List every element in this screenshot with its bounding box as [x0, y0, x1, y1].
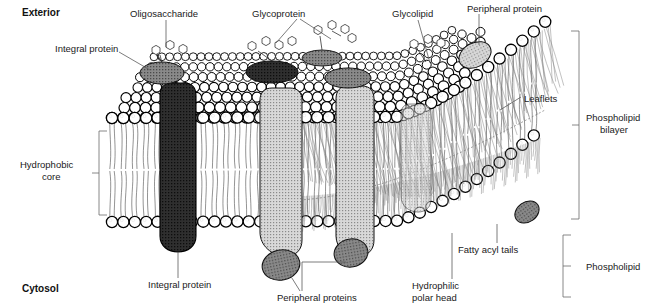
phospholipid-head [302, 92, 312, 102]
phospholipid-head [448, 188, 459, 199]
sugar-hexagon [166, 40, 174, 49]
receding-acyl-tail [536, 35, 548, 95]
phospholipid-head [448, 84, 459, 95]
phospholipid-head [197, 63, 205, 71]
label-exterior: Exterior [22, 7, 60, 18]
integral-protein-light-1 [260, 88, 302, 256]
phospholipid-head [121, 93, 131, 103]
acyl-tail [212, 171, 213, 217]
phospholipid-head [399, 60, 407, 68]
phospholipid-head [197, 53, 205, 61]
phospholipid-head [141, 93, 151, 103]
label-peripheral-proteins: Peripheral proteins [277, 292, 357, 303]
phospholipid-head [209, 216, 220, 227]
phospholipid-head [106, 216, 117, 227]
phospholipid-head [374, 101, 385, 112]
phospholipid-head [448, 26, 456, 34]
surface-protein-dome-1 [140, 62, 184, 84]
rear-acyl-tail [539, 138, 540, 172]
rear-acyl-tail [483, 158, 484, 193]
phospholipid-head [371, 82, 381, 92]
integral-protein-light-2 [336, 86, 374, 256]
label-hydrophilic-head-line2: polar head [412, 292, 457, 303]
phospholipid-head [283, 52, 291, 60]
phospholipid-head [220, 112, 231, 123]
phospholipid-head [141, 216, 152, 227]
rear-acyl-tail [306, 196, 307, 218]
phospholipid-head [141, 112, 152, 123]
phospholipid-head [118, 216, 129, 227]
phospholipid-head [228, 53, 236, 61]
phospholipid-head [213, 53, 221, 61]
phospholipid-head [207, 72, 216, 81]
label-oligosaccharide: Oligosaccharide [130, 8, 198, 19]
acyl-tail [246, 123, 247, 169]
acyl-tail [114, 123, 115, 169]
label-phospholipid: Phospholipid [586, 261, 640, 272]
acyl-tail [205, 171, 206, 217]
phospholipid-head [222, 92, 232, 102]
phospholipid-head [202, 92, 212, 102]
acyl-tail [223, 123, 224, 169]
phospholipid-head [494, 53, 505, 64]
sugar-link [332, 31, 341, 36]
rear-acyl-tail [538, 139, 539, 174]
phospholipid-head [130, 102, 141, 113]
phospholipid-head [200, 82, 210, 92]
phospholipid-head [206, 63, 214, 71]
acyl-tail [132, 171, 133, 217]
phospholipid-head [166, 53, 174, 61]
acyl-tail [257, 123, 258, 169]
phospholipid-head [181, 53, 189, 61]
phospholipid-head [517, 35, 528, 46]
sugar-link [320, 36, 322, 50]
rear-acyl-tail [375, 187, 376, 203]
label-hydrophilic-head-line1: Hydrophilic [412, 280, 459, 291]
oligosaccharide-chain [314, 20, 356, 50]
label-phospholipid-bilayer-line1: Phospholipid [586, 112, 640, 123]
receding-acyl-tail [476, 81, 482, 152]
phospholipid-head [276, 52, 284, 60]
phospholipid-head [225, 102, 236, 113]
phospholipid-head [362, 52, 370, 60]
integral-protein-light-3 [401, 104, 431, 212]
acyl-tail [154, 171, 155, 217]
rear-acyl-tail [528, 142, 529, 176]
phospholipid-head [131, 93, 141, 103]
receding-acyl-tail [314, 123, 319, 183]
receding-acyl-tail [465, 89, 479, 162]
rear-acyl-tail [517, 146, 518, 181]
phospholipid-head [460, 181, 471, 192]
phospholipid-head [381, 82, 391, 92]
phospholipid-head [377, 72, 386, 81]
rear-acyl-tail [504, 151, 505, 186]
sugar-hexagon [348, 33, 356, 42]
sugar-hexagon [437, 38, 445, 47]
phospholipid-head [312, 112, 323, 123]
phospholipid-head [228, 82, 238, 92]
phospholipid-head [140, 102, 151, 113]
phospholipid-head [315, 72, 324, 81]
acyl-tail [257, 170, 258, 216]
surface-protein-dome-4 [302, 50, 342, 66]
label-hydrophobic-core-line2: core [42, 171, 60, 182]
label-phospholipid-bilayer-line2: bilayer [600, 124, 628, 135]
rear-acyl-tail [390, 184, 391, 211]
label-fatty-acyl-tails: Fatty acyl tails [458, 244, 518, 255]
acyl-tail [519, 94, 520, 140]
phospholipid-head [205, 53, 213, 61]
membrane-figure: Exterior Cytosol Oligosaccharide Integra… [0, 0, 648, 306]
rear-acyl-tail [386, 185, 387, 201]
acyl-tail [114, 171, 115, 217]
rear-acyl-tail [333, 193, 334, 220]
phospholipid-head [212, 92, 222, 102]
phospholipid-head [306, 72, 315, 81]
acyl-tail [121, 171, 122, 217]
acyl-tail [147, 171, 148, 217]
phospholipid-head [346, 52, 354, 60]
integral-protein-dark [160, 83, 196, 252]
phospholipid-head [209, 82, 219, 92]
phospholipid-head [385, 52, 393, 60]
sugar-hexagon [262, 36, 270, 45]
phospholipid-head [247, 82, 257, 92]
